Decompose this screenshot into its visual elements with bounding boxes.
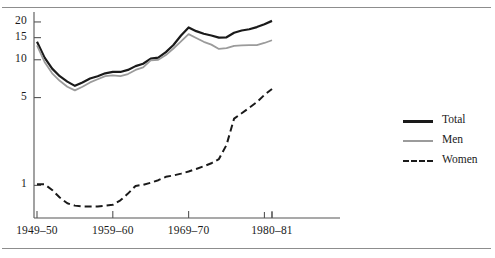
y-tick-label: 1 — [3, 177, 27, 189]
x-tick-label: 1969–70 — [144, 224, 234, 236]
series-line-men — [37, 34, 272, 90]
legend-swatch-total — [403, 120, 433, 123]
chart-legend: Total Men Women — [400, 112, 495, 172]
legend-label-women: Women — [442, 153, 477, 165]
legend-label-men: Men — [442, 133, 463, 145]
legend-swatch-women — [403, 160, 433, 162]
series-line-total — [37, 21, 272, 86]
legend-item-women: Women — [400, 152, 495, 172]
legend-label-total: Total — [442, 113, 465, 125]
x-tick-label: 1980–81 — [227, 224, 317, 236]
y-tick-label: 5 — [3, 90, 27, 102]
legend-item-total: Total — [400, 112, 495, 132]
y-tick-label: 15 — [3, 30, 27, 42]
figure-container: 20151051 1949–501959–601969–701980–81 To… — [0, 0, 495, 258]
y-tick-label: 10 — [3, 52, 27, 64]
y-tick-label: 20 — [3, 14, 27, 26]
legend-swatch-men — [403, 140, 433, 142]
legend-item-men: Men — [400, 132, 495, 152]
series-line-women — [37, 89, 272, 206]
